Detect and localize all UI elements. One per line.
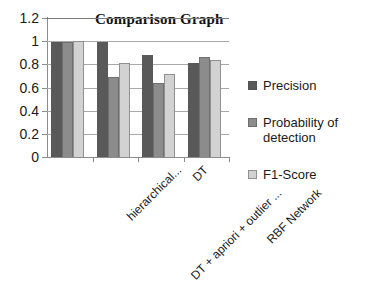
y-axis-tick-label: 0	[31, 149, 39, 165]
bar-group	[51, 18, 84, 157]
bar-group	[188, 18, 221, 157]
y-axis-tick	[42, 41, 47, 42]
legend-item-label: Probability of detection	[263, 115, 366, 145]
y-axis-tick-label: 0.4	[20, 103, 39, 119]
bar	[108, 77, 119, 157]
y-axis-tick	[42, 64, 47, 65]
bar	[199, 57, 210, 157]
legend-item[interactable]: F1-Score	[248, 167, 366, 182]
bar	[73, 41, 84, 157]
legend-item[interactable]: Probability of detection	[248, 115, 366, 145]
y-axis-tick	[42, 88, 47, 89]
legend-item-label: F1-Score	[263, 167, 316, 182]
y-axis-tick-label: 1.2	[20, 10, 39, 26]
y-axis-tick	[42, 111, 47, 112]
legend-item[interactable]: Precision	[248, 78, 366, 93]
y-axis-tick-label: 1	[31, 33, 39, 49]
legend-item-label: Precision	[263, 78, 316, 93]
y-axis-tick-label: 0.8	[20, 56, 39, 72]
bar	[97, 42, 108, 157]
bar-group	[142, 18, 175, 157]
y-axis-tick	[42, 157, 47, 158]
bar	[51, 42, 62, 157]
bar-group	[97, 18, 130, 157]
legend-swatch-icon	[248, 170, 257, 179]
legend-swatch-icon	[248, 118, 257, 127]
y-axis-tick-label: 0.6	[20, 80, 39, 96]
x-axis-category-label: hierarchical...	[124, 163, 184, 223]
x-axis-tick	[229, 157, 230, 162]
bar	[188, 63, 199, 157]
plot-area: 00.20.40.60.811.2	[47, 18, 229, 157]
x-axis-tick	[138, 157, 139, 162]
bar	[164, 74, 175, 157]
y-axis-tick-label: 0.2	[20, 126, 39, 142]
bar	[142, 55, 153, 157]
bar	[119, 63, 130, 157]
bar	[210, 60, 221, 157]
chart-legend: PrecisionProbability of detectionF1-Scor…	[248, 78, 366, 204]
x-axis-tick	[184, 157, 185, 162]
bar	[153, 83, 164, 157]
x-axis-category-label: DT	[190, 163, 211, 184]
bar	[62, 42, 73, 157]
y-axis-tick	[42, 134, 47, 135]
y-axis-tick	[42, 18, 47, 19]
x-axis-tick	[93, 157, 94, 162]
legend-swatch-icon	[248, 81, 257, 90]
